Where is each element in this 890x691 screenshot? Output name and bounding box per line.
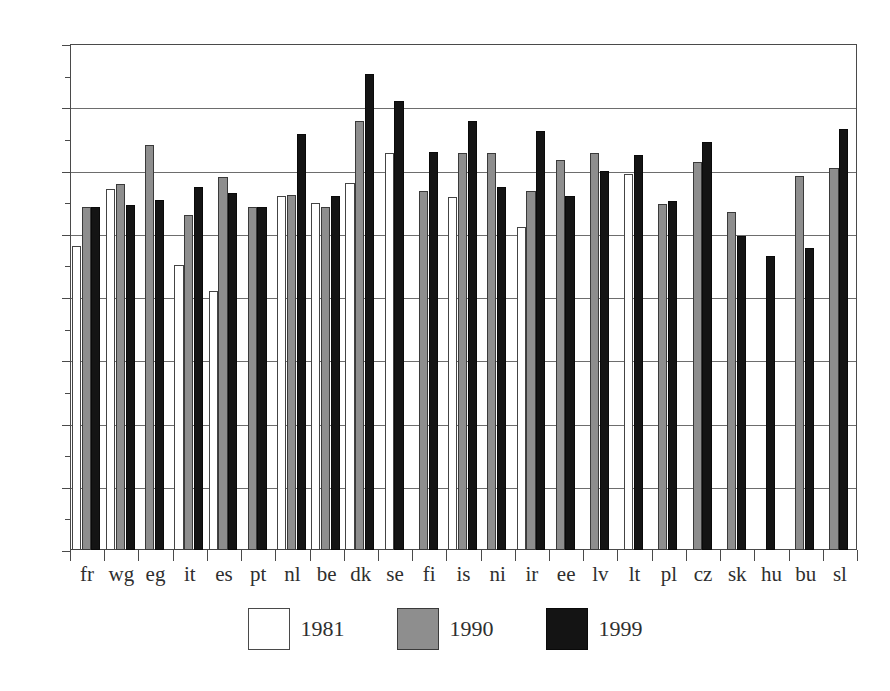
x-tick-end (857, 550, 858, 561)
bar-bu-1990 (795, 176, 804, 550)
bar-nl-1990 (287, 195, 296, 550)
x-tick-16 (617, 550, 618, 561)
x-tick-10 (412, 550, 413, 561)
white-swatch (248, 608, 290, 650)
x-axis-label-be: be (317, 564, 337, 585)
bar-wg-1990 (116, 184, 125, 550)
x-axis-label-cz: cz (694, 564, 713, 585)
x-axis-label-lt: lt (629, 564, 641, 585)
bar-eg-1990 (145, 145, 154, 550)
x-tick-19 (720, 550, 721, 561)
x-tick-17 (652, 550, 653, 561)
bar-be-1990 (321, 207, 330, 550)
x-axis-label-pt: pt (250, 564, 266, 585)
bar-pt-1990 (248, 207, 257, 550)
x-tick-13 (515, 550, 516, 561)
bar-sk-1999 (737, 236, 746, 550)
legend-item-1990: 1990 (397, 608, 494, 650)
bar-ni-1999 (497, 187, 506, 550)
bars-layer (70, 44, 857, 550)
black-swatch (546, 608, 588, 650)
bar-group-ee (549, 44, 583, 550)
bar-es-1990 (218, 177, 227, 550)
x-axis-label-bu: bu (795, 564, 816, 585)
bar-group-is (446, 44, 480, 550)
bar-it-1990 (184, 215, 193, 550)
bar-dk-1981 (345, 183, 354, 550)
legend-item-1981: 1981 (248, 608, 345, 650)
x-tick-18 (686, 550, 687, 561)
bar-group-se (378, 44, 412, 550)
bar-lv-1999 (600, 171, 609, 551)
x-tick-14 (549, 550, 550, 561)
legend-label-1981: 1981 (301, 618, 345, 640)
x-tick-12 (481, 550, 482, 561)
bar-group-pl (652, 44, 686, 550)
bar-lt-1999 (634, 155, 643, 550)
bar-dk-1990 (355, 121, 364, 550)
x-axis-label-es: es (215, 564, 233, 585)
x-tick-6 (275, 550, 276, 561)
legend-item-1999: 1999 (546, 608, 643, 650)
bar-se-1999 (394, 101, 403, 550)
bar-is-1981 (448, 197, 457, 550)
bar-fr-1990 (82, 207, 91, 550)
x-axis-label-hu: hu (761, 564, 782, 585)
bar-ir-1990 (526, 191, 535, 550)
bar-ee-1999 (565, 196, 574, 550)
bar-group-sk (720, 44, 754, 550)
bar-cz-1990 (693, 162, 702, 550)
x-tick-22 (823, 550, 824, 561)
bar-group-lv (583, 44, 617, 550)
x-tick-2 (138, 550, 139, 561)
bar-group-pt (241, 44, 275, 550)
bar-lv-1990 (590, 153, 599, 550)
bar-group-lt (617, 44, 651, 550)
bar-pl-1999 (668, 201, 677, 550)
chart-legend: 198119901999 (0, 608, 890, 650)
x-axis-label-sl: sl (833, 564, 847, 585)
bar-group-fi (412, 44, 446, 550)
bar-group-nl (275, 44, 309, 550)
bar-dk-1999 (365, 74, 374, 550)
gray-swatch (397, 608, 439, 650)
legend-label-1990: 1990 (450, 618, 494, 640)
bar-fr-1999 (91, 207, 100, 550)
bar-group-sl (823, 44, 857, 550)
bar-ir-1999 (536, 131, 545, 550)
bar-group-dk (344, 44, 378, 550)
bar-pt-1999 (257, 207, 266, 550)
x-axis-label-dk: dk (350, 564, 371, 585)
x-axis-label-fi: fi (423, 564, 436, 585)
bar-sl-1999 (839, 129, 848, 550)
bar-fi-1990 (419, 191, 428, 550)
bar-group-ni (481, 44, 515, 550)
bar-nl-1981 (277, 196, 286, 550)
bar-fr-1981 (72, 246, 81, 550)
x-tick-21 (789, 550, 790, 561)
bar-group-bu (789, 44, 823, 550)
bar-ni-1990 (487, 153, 496, 550)
x-axis-label-it: it (184, 564, 196, 585)
x-tick-11 (446, 550, 447, 561)
bar-it-1999 (194, 187, 203, 550)
bar-group-hu (754, 44, 788, 550)
x-tick-20 (754, 550, 755, 561)
bar-group-wg (104, 44, 138, 550)
x-axis-label-sk: sk (728, 564, 747, 585)
bar-group-ir (515, 44, 549, 550)
x-tick-1 (104, 550, 105, 561)
x-axis-label-eg: eg (146, 564, 166, 585)
bar-hu-1999 (766, 256, 775, 550)
bar-ir-1981 (517, 227, 526, 550)
bar-it-1981 (174, 265, 183, 550)
x-axis-label-wg: wg (108, 564, 134, 585)
bar-wg-1981 (106, 189, 115, 550)
x-tick-4 (207, 550, 208, 561)
bar-bu-1999 (805, 248, 814, 550)
bar-group-it (173, 44, 207, 550)
x-tick-5 (241, 550, 242, 561)
bar-group-es (207, 44, 241, 550)
bar-pl-1990 (658, 204, 667, 550)
x-tick-0 (70, 550, 71, 561)
